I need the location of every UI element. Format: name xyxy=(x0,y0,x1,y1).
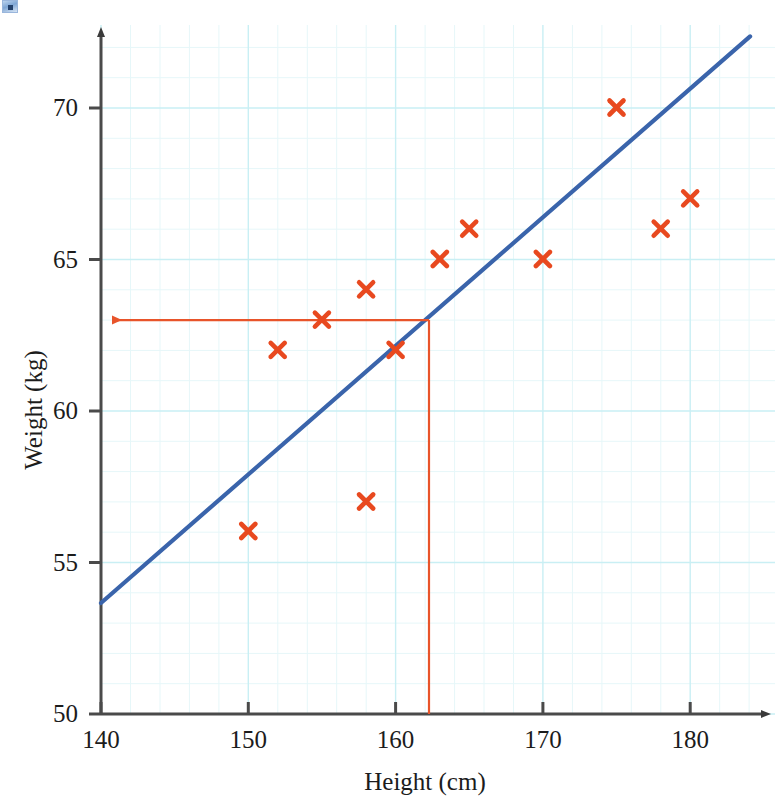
scatter-plot-figure: 50 55 60 65 70 140 150 160 170 180 Heigh… xyxy=(0,0,784,807)
y-tick-label-55: 55 xyxy=(53,549,78,576)
y-tick-label-70: 70 xyxy=(53,94,78,121)
x-tick-label-180: 180 xyxy=(671,726,709,753)
y-axis-title: Weight (kg) xyxy=(20,350,48,469)
x-axis-title: Height (cm) xyxy=(364,768,485,796)
x-tick-label-160: 160 xyxy=(377,726,415,753)
x-tick-label-140: 140 xyxy=(82,726,120,753)
grid-minor-horizontal xyxy=(101,47,775,683)
y-tick-label-65: 65 xyxy=(53,246,78,273)
plot-canvas: 50 55 60 65 70 140 150 160 170 180 Heigh… xyxy=(0,0,784,807)
y-tick-label-60: 60 xyxy=(53,397,78,424)
x-tick-label-170: 170 xyxy=(524,726,562,753)
y-axis-ticks xyxy=(89,108,101,714)
x-tick-label-150: 150 xyxy=(230,726,268,753)
y-tick-label-50: 50 xyxy=(53,700,78,727)
grid-minor-vertical xyxy=(131,25,750,714)
